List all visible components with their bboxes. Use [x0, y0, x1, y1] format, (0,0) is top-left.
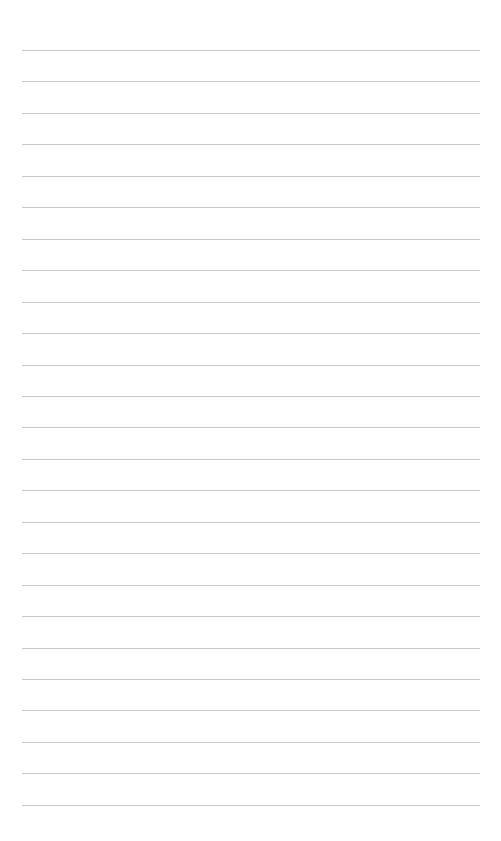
- ruled-line: [22, 679, 480, 680]
- ruled-line: [22, 396, 480, 397]
- ruled-line: [22, 144, 480, 145]
- ruled-line: [22, 239, 480, 240]
- ruled-line: [22, 522, 480, 523]
- ruled-line: [22, 459, 480, 460]
- ruled-line: [22, 616, 480, 617]
- ruled-line: [22, 742, 480, 743]
- ruled-line: [22, 490, 480, 491]
- ruled-line: [22, 207, 480, 208]
- ruled-line: [22, 270, 480, 271]
- ruled-line: [22, 553, 480, 554]
- ruled-line: [22, 50, 480, 51]
- ruled-line: [22, 585, 480, 586]
- ruled-line: [22, 773, 480, 774]
- ruled-line: [22, 176, 480, 177]
- ruled-line: [22, 302, 480, 303]
- ruled-line: [22, 805, 480, 806]
- ruled-line: [22, 81, 480, 82]
- ruled-line: [22, 113, 480, 114]
- ruled-line: [22, 710, 480, 711]
- ruled-line: [22, 427, 480, 428]
- ruled-line: [22, 333, 480, 334]
- lined-paper-page: [0, 0, 501, 841]
- ruled-line: [22, 365, 480, 366]
- ruled-line: [22, 648, 480, 649]
